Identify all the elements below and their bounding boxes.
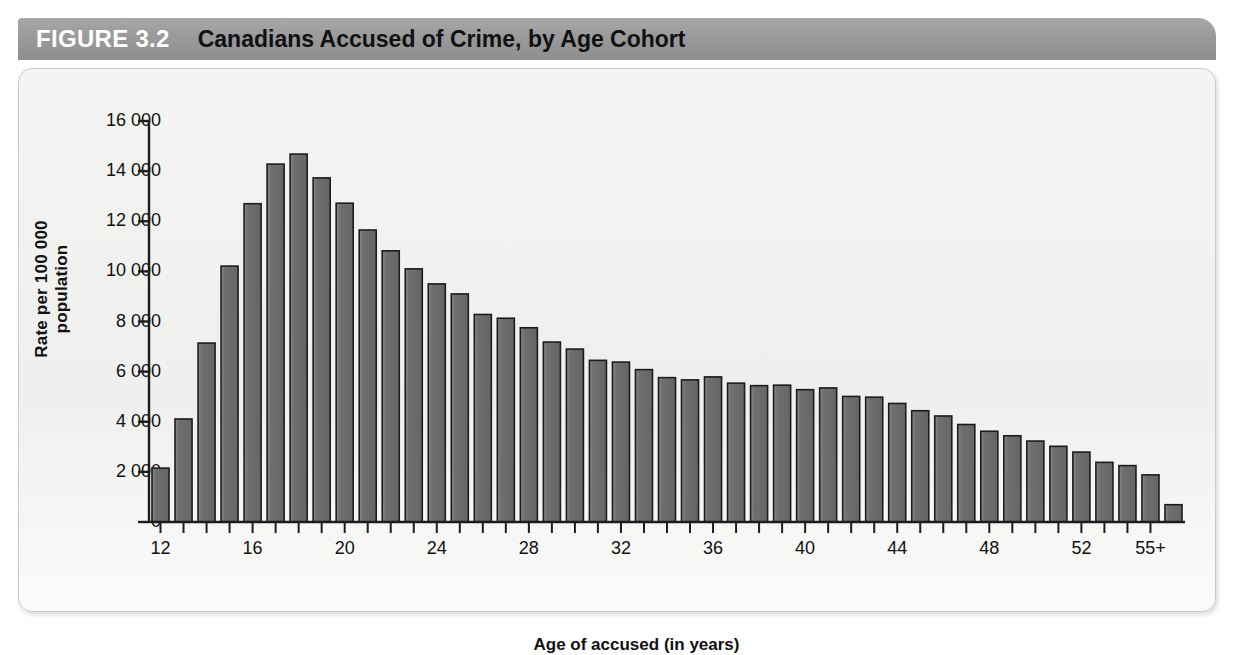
figure-number-label: FIGURE 3.2 [36,25,170,53]
bar-chart-plot [19,69,1215,611]
figure-header-band: FIGURE 3.2 Canadians Accused of Crime, b… [18,18,1216,60]
bar-17 [267,164,284,522]
bar-55+ [1142,475,1159,522]
bar-53 [1096,462,1113,522]
bar-43 [866,397,883,522]
bar-40 [797,390,814,522]
bar-41 [820,388,837,522]
bar-24 [428,284,445,522]
bar-27 [497,318,514,522]
bar-50 [1027,441,1044,522]
bar-39 [774,385,791,522]
bar-38 [751,386,768,522]
bar-48 [981,431,998,522]
x-axis-ticks [161,522,1151,533]
bar-14 [198,343,215,522]
bar-16 [244,204,261,522]
bar-12 [152,468,169,522]
bar-34 [658,378,675,522]
bar-21 [359,230,376,522]
bar-15 [221,266,238,522]
bar-47 [958,425,975,522]
bar-20 [336,203,353,522]
bar-28 [520,328,537,522]
bar-26 [474,314,491,522]
figure-body-panel: Rate per 100 000 population Age of accus… [18,68,1216,612]
bar-18 [290,154,307,522]
bar-36 [705,377,722,522]
bar-54 [1119,466,1136,522]
bar-31 [589,360,606,522]
bar-19 [313,178,330,522]
bar-46 [935,416,952,522]
y-axis-ticks [138,121,149,522]
bar-51 [1050,446,1067,522]
bar-42 [843,396,860,522]
bar-30 [566,349,583,522]
bar-32 [612,362,629,522]
bar-35 [682,380,699,522]
bar-37 [728,383,745,522]
bar-45 [912,411,929,522]
bar-23 [405,269,422,522]
bar-33 [635,370,652,522]
bar-13 [175,419,192,522]
x-axis-title: Age of accused (in years) [19,635,1235,655]
bars-group [152,154,1182,522]
bar-undefined [1165,505,1182,522]
bar-52 [1073,452,1090,522]
bar-22 [382,251,399,522]
bar-44 [889,403,906,522]
bar-49 [1004,436,1021,522]
figure-title: Canadians Accused of Crime, by Age Cohor… [198,26,686,53]
bar-29 [543,342,560,522]
bar-25 [451,294,468,522]
